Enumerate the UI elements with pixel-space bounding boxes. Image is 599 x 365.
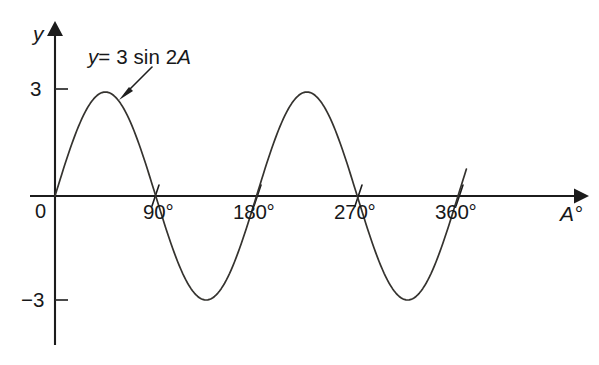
origin-label: 0 <box>35 201 46 221</box>
equation-a-symbol: A <box>177 45 191 68</box>
x-tick-label-90: 90° <box>143 202 173 223</box>
equation-y-symbol: y <box>88 45 98 68</box>
x-axis <box>30 189 589 204</box>
y-axis-ticks <box>55 89 68 300</box>
equation-annotation: y= 3 sin 2A <box>88 47 191 68</box>
y-axis-label: y <box>33 23 44 44</box>
figure-canvas: y A° 0 3 −3 90° 180° 270° 360° y= 3 sin … <box>0 0 599 365</box>
x-tick-label-180: 180° <box>233 202 275 223</box>
y-tick-label-3: 3 <box>30 79 41 100</box>
y-tick-label-minus-3: −3 <box>21 290 44 311</box>
x-tick-label-270: 270° <box>334 202 376 223</box>
y-axis <box>47 21 63 345</box>
x-axis-label: A° <box>560 203 582 224</box>
x-tick-label-360: 360° <box>435 202 477 223</box>
equation-leader-arrow <box>119 67 152 100</box>
y-axis-arrowhead <box>47 21 63 36</box>
equation-body: = 3 sin 2 <box>98 45 177 68</box>
